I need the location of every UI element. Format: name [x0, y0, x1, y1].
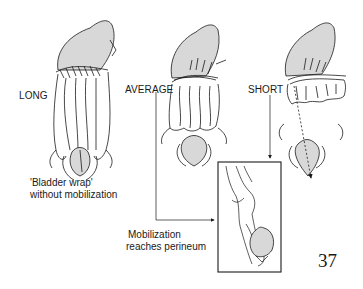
mobilization-inset — [218, 162, 281, 272]
page-number: 37 — [318, 251, 337, 270]
caption-bladder-wrap-line1: 'Bladder wrap' — [30, 177, 117, 189]
label-average: AVERAGE — [125, 85, 173, 95]
caption-mobilization-line1: Mobilization — [126, 229, 206, 241]
caption-mobilization: Mobilization reaches perineum — [126, 229, 206, 253]
long-colon-drawing — [50, 21, 116, 180]
caption-bladder-wrap: 'Bladder wrap' without mobilization — [30, 177, 117, 201]
average-colon-drawing — [161, 25, 226, 166]
label-long: LONG — [19, 91, 48, 101]
caption-mobilization-line2: reaches perineum — [126, 241, 206, 253]
caption-bladder-wrap-line2: without mobilization — [30, 189, 117, 201]
short-colon-drawing — [279, 23, 346, 178]
leader-lines — [156, 92, 270, 220]
label-short: SHORT — [248, 85, 283, 95]
